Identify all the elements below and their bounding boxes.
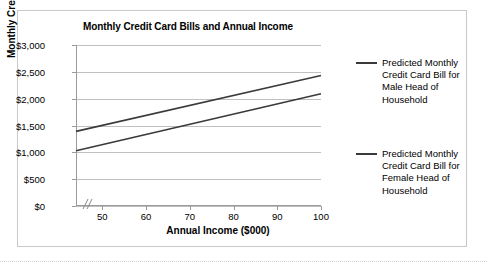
- x-tick-mark: [190, 206, 191, 210]
- legend-label: Predicted Monthly Credit Card Bill for F…: [382, 148, 466, 197]
- series-lines: [76, 45, 321, 206]
- x-axis-label: Annual Income ($000): [48, 225, 388, 236]
- y-tick-label: $1,000: [0, 147, 45, 158]
- y-tick-label: $500: [0, 174, 45, 185]
- legend-label: Predicted Monthly Credit Card Bill for M…: [382, 57, 466, 106]
- y-tick-label: $1,500: [0, 120, 45, 131]
- x-tick-label: 60: [141, 211, 152, 222]
- y-tick-label: $0: [0, 201, 45, 212]
- plot-area: [76, 45, 321, 206]
- y-tick-label: $2,000: [0, 93, 45, 104]
- x-tick-mark: [277, 206, 278, 210]
- x-tick-mark: [146, 206, 147, 210]
- gridline: [76, 206, 321, 207]
- y-tick-label: $3,000: [0, 40, 45, 51]
- chart-figure: Monthly Credit Card Bills and Annual Inc…: [17, 10, 467, 247]
- x-tick-mark: [321, 206, 322, 210]
- x-tick-label: 70: [184, 211, 195, 222]
- page-bottom-divider: [0, 261, 487, 263]
- legend-entry-2[interactable]: Predicted Monthly Credit Card Bill for F…: [356, 148, 466, 197]
- legend-entry-1[interactable]: Predicted Monthly Credit Card Bill for M…: [356, 57, 466, 106]
- axis-break-icon: [81, 199, 95, 211]
- x-tick-mark: [102, 206, 103, 210]
- chart-title: Monthly Credit Card Bills and Annual Inc…: [18, 21, 358, 32]
- x-tick-label: 80: [228, 211, 239, 222]
- legend-line-swatch-icon: [356, 62, 377, 64]
- x-tick-label: 50: [97, 211, 108, 222]
- y-tick-mark: [72, 206, 76, 207]
- x-tick-label: 100: [313, 211, 329, 222]
- y-tick-label: $2,500: [0, 66, 45, 77]
- x-tick-label: 90: [272, 211, 283, 222]
- legend-line-swatch-icon: [356, 153, 377, 155]
- x-tick-mark: [234, 206, 235, 210]
